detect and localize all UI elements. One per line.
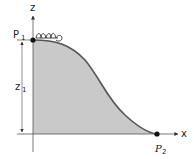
z-axis-label: z	[30, 2, 35, 13]
point-p1	[30, 37, 35, 42]
p1-subscript: 1	[21, 34, 25, 42]
p2-subscript: 2	[162, 148, 166, 156]
z1-subscript: 1	[22, 86, 26, 94]
x-axis-label: x	[181, 128, 187, 139]
p2-label: P	[154, 143, 162, 154]
p1-label: P	[13, 29, 19, 40]
shaded-area	[33, 40, 157, 134]
hill-profile-diagram: z x P 1 P 2 z 1	[0, 0, 194, 159]
point-p2	[154, 131, 159, 136]
z1-label: z	[15, 81, 20, 92]
